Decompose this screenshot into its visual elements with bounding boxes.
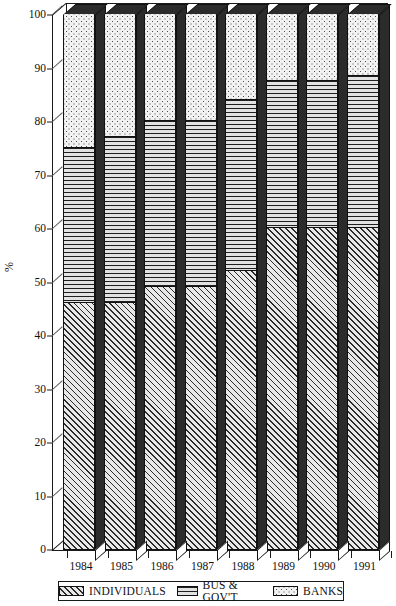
horizontal-lines-swatch — [177, 586, 198, 596]
bar-segment-banks — [105, 14, 135, 137]
bar-segment-individuals — [267, 228, 297, 549]
y-axis-tick-label: 100 — [4, 9, 46, 21]
bar-segment-individuals — [307, 228, 337, 549]
bar-segment-individuals — [348, 228, 378, 549]
legend-label: INDIVIDUALS — [89, 585, 166, 597]
y-axis-tick-label: 0 — [4, 544, 46, 556]
bar-1989[interactable] — [266, 15, 298, 550]
bar-segment-bus-gov-t — [307, 81, 337, 228]
bar-segment-banks — [348, 14, 378, 76]
y-axis-tick-label: 10 — [4, 491, 46, 503]
bar-1991[interactable] — [347, 15, 379, 550]
x-axis-tick-mark — [391, 551, 392, 558]
legend-label: BUS & GOV'T — [203, 579, 262, 603]
bar-segment-bus-gov-t — [226, 100, 256, 271]
y-axis-tick-mark — [47, 550, 52, 551]
y-axis-tick-label: 20 — [4, 437, 46, 449]
bar-segment-banks — [186, 14, 216, 121]
bar-segment-banks — [307, 14, 337, 81]
bar-segment-banks — [64, 14, 94, 148]
legend-item-individuals[interactable]: INDIVIDUALS — [59, 585, 166, 597]
x-axis-tick-label: 1991 — [339, 560, 391, 572]
bar-segment-bus-gov-t — [145, 121, 175, 287]
x-axis-tick-mark — [351, 551, 352, 558]
bar-1987[interactable] — [185, 15, 217, 550]
legend-label: BANKS — [303, 585, 343, 597]
stacked-bar-chart: % 0102030405060708090100 INDIVIDUALSBUS … — [0, 0, 396, 606]
bar-1985[interactable] — [104, 15, 136, 550]
bar-segment-banks — [226, 14, 256, 100]
bar-1990[interactable] — [306, 15, 338, 550]
bar-segment-individuals — [64, 303, 94, 549]
bar-segment-banks — [267, 14, 297, 81]
y-axis-tick-label: 50 — [4, 277, 46, 289]
x-axis-tick-mark — [148, 551, 149, 558]
bar-1984[interactable] — [63, 15, 95, 550]
bar-segment-individuals — [226, 271, 256, 549]
x-axis-tick-mark — [67, 551, 68, 558]
x-axis-tick-mark — [229, 551, 230, 558]
y-axis-tick-label: 70 — [4, 170, 46, 182]
plot-area — [52, 0, 388, 606]
x-axis-tick-mark — [189, 551, 190, 558]
y-axis-tick-label: 90 — [4, 63, 46, 75]
y-axis-tick-label: 60 — [4, 223, 46, 235]
bar-segment-bus-gov-t — [64, 148, 94, 303]
bar-segment-bus-gov-t — [105, 137, 135, 303]
y-axis-tick-label: 40 — [4, 330, 46, 342]
y-axis-ticks: 0102030405060708090100 — [0, 0, 46, 606]
bar-1986[interactable] — [144, 15, 176, 550]
bar-segment-individuals — [145, 287, 175, 549]
bar-side-face — [379, 5, 390, 550]
diagonal-hatch-swatch — [59, 586, 84, 596]
bar-segment-bus-gov-t — [348, 76, 378, 228]
bar-segment-bus-gov-t — [267, 81, 297, 228]
bar-1988[interactable] — [225, 15, 257, 550]
dotted-swatch — [273, 586, 298, 596]
x-axis-tick-mark — [270, 551, 271, 558]
y-axis-tick-label: 80 — [4, 116, 46, 128]
bar-segment-individuals — [186, 287, 216, 549]
chart-legend: INDIVIDUALSBUS & GOV'TBANKS — [58, 581, 344, 601]
bar-segment-individuals — [105, 303, 135, 549]
bar-segment-banks — [145, 14, 175, 121]
legend-item-banks[interactable]: BANKS — [273, 585, 343, 597]
x-axis-tick-mark — [108, 551, 109, 558]
legend-item-bus-gov-t[interactable]: BUS & GOV'T — [177, 579, 262, 603]
y-axis-tick-label: 30 — [4, 384, 46, 396]
x-axis-tick-mark — [310, 551, 311, 558]
bar-segment-bus-gov-t — [186, 121, 216, 287]
